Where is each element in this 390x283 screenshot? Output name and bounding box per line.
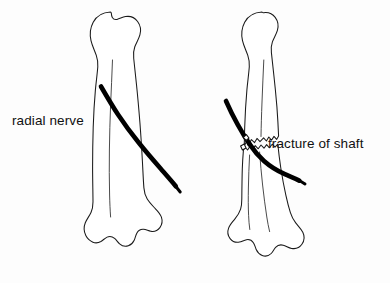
label-radial-nerve: radial nerve	[12, 113, 84, 128]
figure-canvas: radial nerve	[0, 0, 390, 283]
anatomical-figure: radial nerve	[0, 0, 390, 283]
label-fracture-of-shaft: fracture of shaft	[268, 136, 364, 151]
